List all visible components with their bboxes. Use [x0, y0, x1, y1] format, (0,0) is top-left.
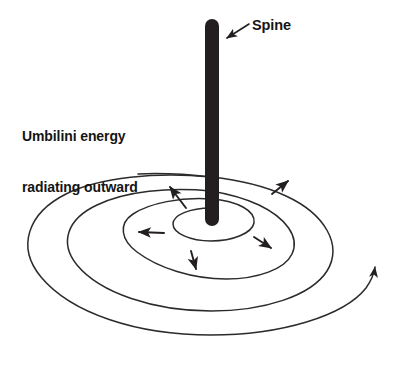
spine-bar: [205, 19, 219, 226]
arrow-left: [139, 232, 164, 233]
umbilini-label-line-1: Umbilini energy: [22, 128, 138, 145]
arrow-down-right: [254, 237, 271, 248]
umbilini-energy-label: Umbilini energy radiating outward: [22, 94, 138, 231]
spine-label: Spine: [252, 17, 291, 35]
spine-callout-leader: [227, 24, 249, 38]
arrow-down: [191, 251, 196, 269]
umbilini-label-line-2: radiating outward: [22, 179, 138, 196]
arrow-up-right: [272, 181, 288, 194]
umbilini-energy-diagram: Spine Umbilini energy radiating outward: [0, 0, 396, 371]
